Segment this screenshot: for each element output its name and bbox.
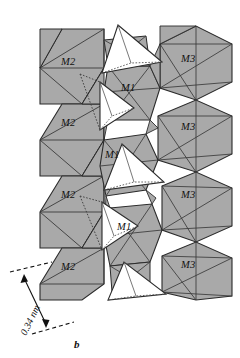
octahedron-M3-3 — [162, 172, 232, 242]
site-label-M1-2: M1 — [105, 149, 119, 160]
site-label-M2-2: M2 — [61, 117, 75, 128]
octahedron-M3-2 — [158, 100, 232, 172]
scale-arrow-head-top — [21, 274, 29, 283]
panel-label: b — [74, 338, 80, 350]
octahedra-column-M2-left — [40, 29, 104, 300]
scale-arrow-head-bottom — [42, 319, 50, 328]
site-label-M3-3: M3 — [181, 189, 195, 200]
site-label-M2-3: M2 — [61, 189, 75, 200]
scale-guide-bottom — [32, 322, 74, 334]
site-label-M3-1: M3 — [181, 53, 195, 64]
octahedron-M3-4 — [162, 242, 232, 300]
site-label-M2-1: M2 — [61, 56, 75, 67]
scale-guide-top — [10, 262, 52, 272]
site-label-M1-1: M1 — [121, 82, 135, 93]
site-label-M3-4: M3 — [181, 259, 195, 270]
site-label-M1-3: M1 — [117, 221, 131, 232]
site-label-M3-2: M3 — [181, 121, 195, 132]
site-label-M2-4: M2 — [61, 261, 75, 272]
octahedron-M2-4 — [40, 248, 104, 300]
